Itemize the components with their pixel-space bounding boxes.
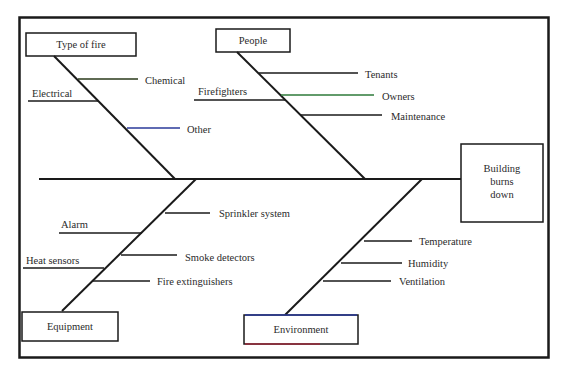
- cause-label-temperature: Temperature: [419, 236, 472, 247]
- cause-label-humidity: Humidity: [408, 258, 449, 269]
- fishbone-diagram: Building burns down Type of fire Chemica…: [0, 0, 570, 374]
- cause-label-maintenance: Maintenance: [391, 111, 446, 122]
- cause-label-heat-sensors: Heat sensors: [26, 255, 79, 266]
- cause-label-chemical: Chemical: [145, 75, 185, 86]
- cause-label-owners: Owners: [382, 91, 415, 102]
- cause-label-other: Other: [187, 124, 211, 135]
- category-environment: Environment Temperature Humidity Ventila…: [244, 179, 472, 344]
- cause-label-tenants: Tenants: [365, 69, 398, 80]
- effect-box: Building burns down: [461, 144, 543, 222]
- cause-label-electrical: Electrical: [32, 88, 72, 99]
- cause-label-alarm: Alarm: [61, 219, 88, 230]
- category-type-of-fire: Type of fire Chemical Electrical Other: [26, 33, 211, 179]
- cause-label-smoke-detectors: Smoke detectors: [185, 252, 255, 263]
- category-label: Type of fire: [56, 39, 106, 50]
- cause-label-firefighters: Firefighters: [198, 86, 247, 97]
- cause-label-ventilation: Ventilation: [399, 276, 446, 287]
- effect-line-2: burns: [490, 176, 513, 187]
- effect-line-3: down: [490, 189, 514, 200]
- effect-line-1: Building: [484, 163, 522, 174]
- main-bone: [62, 179, 196, 311]
- category-label: Equipment: [47, 321, 93, 332]
- cause-label-sprinkler-system: Sprinkler system: [219, 208, 290, 219]
- main-bone: [285, 179, 422, 315]
- category-label: Environment: [274, 324, 329, 335]
- category-people: People Tenants Firefighters Owners Maint…: [194, 29, 446, 179]
- category-label: People: [239, 35, 268, 46]
- cause-label-fire-extinguishers: Fire extinguishers: [157, 276, 233, 287]
